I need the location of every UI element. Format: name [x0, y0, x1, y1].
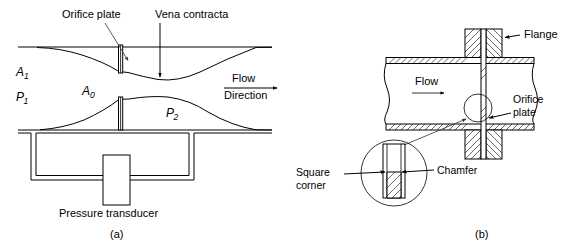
pipe-break-left-b [384, 64, 389, 125]
square-corner-label-line1-b: Square [296, 166, 330, 178]
pressure-downstream-symbol-a: P 2 [166, 106, 179, 122]
tube-upstream-outer [18, 133, 107, 180]
pressure-transducer-label-a: Pressure transducer [59, 207, 158, 219]
orifice-plate-callout-b: Orifice plate [489, 93, 543, 118]
direction-label-a: Direction [224, 89, 267, 101]
flange-leader-b [505, 35, 520, 38]
flow-label-b: Flow [415, 75, 438, 87]
panel-a-group: Orifice plate Vena contracta A 1 A 0 P 1 [15, 8, 277, 240]
flange-block-upper-left [465, 29, 481, 58]
area-upstream-letter: A [15, 65, 24, 79]
orifice-plate-label-line1-b: Orifice [513, 93, 543, 105]
square-corner-callout-b: Square corner [296, 166, 385, 191]
pressure-upstream-symbol-a: P 1 [16, 90, 29, 106]
pressure-upstream-subscript: 1 [24, 96, 29, 106]
flange-label-b: Flange [524, 28, 558, 40]
orifice-meter-figure: Orifice plate Vena contracta A 1 A 0 P 1 [0, 0, 570, 244]
area-orifice-subscript: 0 [90, 90, 95, 100]
caption-b: (b) [475, 228, 488, 240]
chamfer-label-b: Chamfer [437, 164, 478, 176]
orifice-plate-leader-b [489, 113, 511, 118]
orifice-plate-label-line2-b: plate [513, 106, 536, 118]
area-upstream-subscript: 1 [24, 71, 29, 81]
orifice-plate-b [481, 29, 486, 159]
square-corner-leader-b [344, 172, 385, 174]
tube-downstream-inner [128, 133, 189, 176]
area-orifice-letter: A [81, 84, 90, 98]
square-corner-label-line2-b: corner [296, 179, 326, 191]
flange-block-lower-right [486, 130, 502, 159]
orifice-plate-leader-a [105, 23, 128, 61]
detail-magnify-leader-b [397, 119, 466, 148]
chamfer-callout-b: Chamfer [402, 164, 478, 176]
pressure-downstream-subscript: 2 [173, 112, 179, 122]
flow-direction-indicator-a: Flow Direction [224, 72, 277, 101]
area-orifice-symbol-a: A 0 [81, 84, 95, 100]
caption-a: (a) [110, 228, 123, 240]
area-upstream-symbol-a: A 1 [15, 65, 29, 81]
chamfer-leader-b [402, 170, 434, 172]
pressure-transducer-box-a [103, 155, 130, 205]
panel-b-group: Flange [296, 28, 558, 240]
flange-block-upper-right [486, 29, 502, 58]
pressure-curve-a [40, 97, 272, 130]
tube-upstream-inner [36, 133, 107, 176]
tube-downstream-outer [128, 133, 272, 180]
flow-indicator-b: Flow [412, 75, 444, 93]
pressure-tap-tubing-a [18, 133, 272, 180]
orifice-plate-label-a: Orifice plate [62, 8, 121, 20]
flow-label-a: Flow [232, 72, 255, 84]
flange-block-lower-left [465, 130, 481, 159]
figure-canvas: Orifice plate Vena contracta A 1 A 0 P 1 [0, 0, 570, 244]
vena-contracta-label-a: Vena contracta [155, 8, 229, 20]
detail-indicator-circle-b [464, 94, 492, 122]
